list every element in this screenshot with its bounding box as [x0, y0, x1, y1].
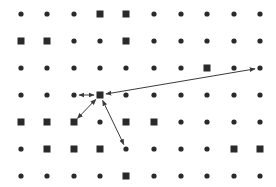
square-node — [123, 38, 130, 45]
square-node — [97, 146, 104, 153]
square-node — [18, 38, 25, 45]
circle-node — [178, 38, 183, 43]
double-arrow — [103, 100, 124, 144]
circle-node — [178, 119, 183, 124]
circle-node — [151, 38, 156, 43]
circle-node — [123, 92, 128, 97]
circle-node — [18, 65, 23, 70]
circle-node — [231, 119, 236, 124]
square-node — [204, 65, 211, 72]
circle-node — [151, 65, 156, 70]
circle-node — [97, 65, 102, 70]
square-node — [71, 119, 78, 126]
circle-node — [97, 38, 102, 43]
square-node — [123, 173, 130, 180]
circle-node — [71, 38, 76, 43]
square-node — [44, 146, 51, 153]
circle-node — [97, 119, 102, 124]
circle-node — [204, 11, 209, 16]
circle-node — [231, 173, 236, 178]
circle-node — [151, 11, 156, 16]
circle-node — [97, 173, 102, 178]
circle-node — [178, 173, 183, 178]
circle-node — [257, 119, 262, 124]
circle-node — [151, 173, 156, 178]
circle-node — [18, 11, 23, 16]
double-arrow — [77, 99, 95, 118]
circle-node — [71, 11, 76, 16]
circle-node — [257, 65, 262, 70]
arrow-group — [77, 69, 255, 145]
circle-node — [231, 92, 236, 97]
square-node — [123, 11, 130, 18]
circle-node — [44, 173, 49, 178]
circle-node — [71, 92, 76, 97]
circle-node — [178, 65, 183, 70]
circle-node — [204, 38, 209, 43]
circle-node — [71, 65, 76, 70]
square-node — [257, 146, 264, 153]
circle-node — [204, 92, 209, 97]
square-node — [123, 119, 130, 126]
circle-node — [44, 11, 49, 16]
circle-node — [257, 11, 262, 16]
square-node — [151, 119, 158, 126]
circle-node — [44, 65, 49, 70]
circle-node — [18, 173, 23, 178]
circle-node — [123, 65, 128, 70]
square-node — [231, 146, 238, 153]
square-node — [44, 38, 51, 45]
circle-node — [204, 119, 209, 124]
circle-node — [123, 146, 128, 151]
circle-node — [231, 11, 236, 16]
circle-node — [178, 146, 183, 151]
double-arrow — [106, 69, 255, 94]
circle-node — [257, 92, 262, 97]
circle-node — [231, 38, 236, 43]
circle-node — [71, 173, 76, 178]
square-node — [71, 146, 78, 153]
circle-node — [231, 65, 236, 70]
circle-node — [204, 173, 209, 178]
circle-node — [178, 11, 183, 16]
circle-node — [18, 92, 23, 97]
node-grid — [18, 11, 264, 180]
square-node — [44, 119, 51, 126]
circle-node — [151, 146, 156, 151]
circle-node — [257, 38, 262, 43]
square-node — [18, 119, 25, 126]
circle-node — [257, 173, 262, 178]
circle-node — [204, 146, 209, 151]
circle-node — [178, 92, 183, 97]
square-node — [97, 11, 104, 18]
lattice-diagram — [0, 0, 276, 187]
circle-node — [151, 92, 156, 97]
square-node — [97, 92, 104, 99]
circle-node — [18, 146, 23, 151]
circle-node — [44, 92, 49, 97]
